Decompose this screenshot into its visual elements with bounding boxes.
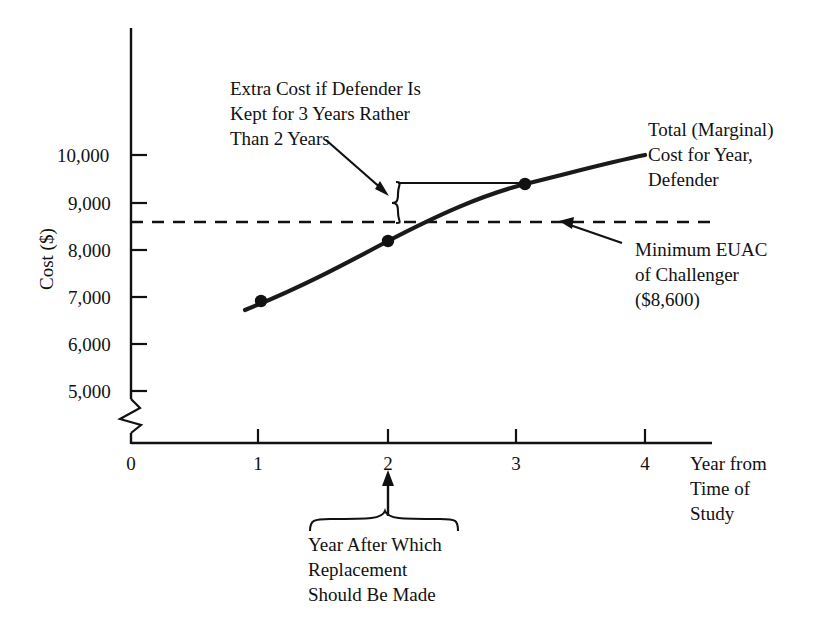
replacement-year-arrow [382,470,394,516]
y-tick-label-8000: 8,000 [68,239,111,264]
x-tick-label-1: 1 [238,452,278,477]
y-axis-title: Cost ($) [36,228,58,290]
y-tick-label-10000: 10,000 [57,144,109,169]
x-tick-marks [258,429,645,443]
replacement-year-brace [310,511,458,531]
x-tick-label-4: 4 [625,452,665,477]
annotation-extra-cost-line-3: Than 2 Years [230,127,330,152]
min-euac-arrow [559,217,622,243]
annotation-replacement-year-line-3: Should Be Made [308,583,436,608]
annotation-min-euac-line-1: Minimum EUAC [635,238,767,263]
annotation-extra-cost-line-2: Kept for 3 Years Rather [230,102,410,127]
x-tick-label-0: 0 [111,452,151,477]
annotation-defender-curve-line-2: Cost for Year, [648,143,753,168]
y-tick-marks [131,155,147,391]
annotation-replacement-year-line-2: Replacement [308,558,407,583]
chart-figure: Cost ($) 10,000 9,000 8,000 7,000 6,000 … [0,0,827,624]
y-tick-label-5000: 5,000 [68,380,111,405]
x-tick-label-3: 3 [496,452,536,477]
extra-cost-arrow [326,140,389,196]
x-axis-title-line-2: Time of [690,477,750,502]
y-tick-label-6000: 6,000 [68,333,111,358]
annotation-min-euac-line-2: of Challenger [635,263,739,288]
annotation-defender-curve-line-3: Defender [648,168,719,193]
y-axis-break-symbol [120,399,141,433]
y-tick-label-7000: 7,000 [68,286,111,311]
defender-cost-curve [245,155,645,310]
annotation-defender-curve-line-1: Total (Marginal) [648,118,773,143]
data-point-year-1 [255,295,267,307]
x-axis-title-line-1: Year from [690,452,767,477]
annotation-min-euac-line-3: ($8,600) [635,288,700,313]
annotation-extra-cost-line-1: Extra Cost if Defender Is [230,77,421,102]
x-tick-label-2: 2 [368,452,408,477]
extra-cost-brace [392,182,400,223]
x-axis-title-line-3: Study [690,502,734,527]
data-point-year-2 [382,235,394,247]
y-tick-label-9000: 9,000 [68,192,111,217]
annotation-replacement-year-line-1: Year After Which [308,533,442,558]
